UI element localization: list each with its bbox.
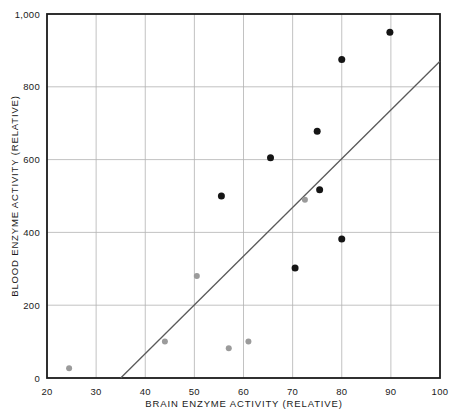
- data-point-gray-points: [194, 273, 200, 279]
- data-points: [66, 29, 393, 371]
- data-point-dark-points: [338, 235, 345, 242]
- gridlines: [47, 14, 440, 378]
- plot-canvas: 2030405060708090100 02004006008001,000 B…: [0, 0, 453, 413]
- data-point-gray-points: [245, 339, 251, 345]
- data-point-dark-points: [292, 265, 299, 272]
- y-tick-label: 1,000: [15, 9, 40, 20]
- y-tick-label: 800: [23, 81, 40, 92]
- x-tick-label: 60: [238, 386, 249, 397]
- y-axis-title: BLOOD ENZYME ACTIVITY (RELATIVE): [9, 95, 20, 297]
- data-point-dark-points: [316, 186, 323, 193]
- x-tick-label: 30: [91, 386, 102, 397]
- x-tick-label: 100: [432, 386, 449, 397]
- data-point-dark-points: [386, 29, 393, 36]
- regression-line: [121, 61, 440, 378]
- y-tick-label: 200: [23, 300, 40, 311]
- data-point-gray-points: [226, 345, 232, 351]
- x-tick-label: 20: [41, 386, 52, 397]
- y-tick-label: 600: [23, 154, 40, 165]
- data-point-dark-points: [314, 128, 321, 135]
- data-point-dark-points: [218, 193, 225, 200]
- x-axis-tick-labels: 2030405060708090100: [41, 386, 448, 397]
- x-tick-label: 90: [385, 386, 396, 397]
- y-tick-label: 400: [23, 227, 40, 238]
- y-tick-label: 0: [34, 373, 40, 384]
- x-tick-label: 70: [287, 386, 298, 397]
- data-point-gray-points: [162, 339, 168, 345]
- x-tick-label: 50: [189, 386, 200, 397]
- x-axis-title: BRAIN ENZYME ACTIVITY (RELATIVE): [145, 398, 342, 409]
- data-point-gray-points: [302, 197, 308, 203]
- scatter-chart: 2030405060708090100 02004006008001,000 B…: [0, 0, 453, 413]
- x-tick-label: 80: [336, 386, 347, 397]
- data-point-dark-points: [267, 154, 274, 161]
- x-tick-label: 40: [140, 386, 151, 397]
- data-point-gray-points: [66, 365, 72, 371]
- trend-line: [121, 61, 440, 378]
- data-point-dark-points: [338, 56, 345, 63]
